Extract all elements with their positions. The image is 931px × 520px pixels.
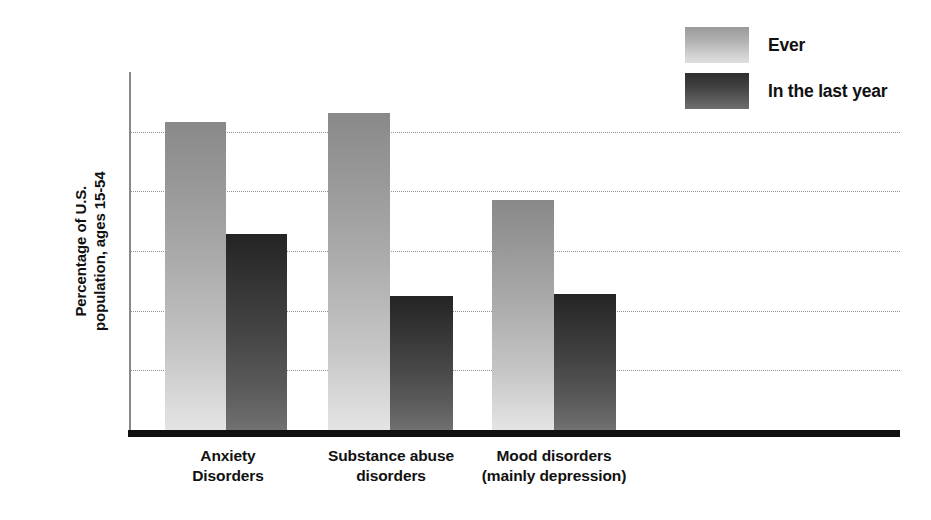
gridline-25 [131,132,900,133]
category-label-anxiety-line-2: Disorders [145,466,311,486]
y-axis-title-line-1: Percentage of U.S. [71,101,90,401]
x-axis-line [128,430,900,437]
plot-area: 0 5 10 15 20 25 30 Anxiety Disorders Sub… [129,72,900,430]
category-label-mood-line-1: Mood disorders [465,446,643,466]
legend-label-ever: Ever [768,35,805,56]
category-label-substance-line-1: Substance abuse [305,446,477,466]
bar-anxiety-ever [165,122,226,430]
legend-item-ever: Ever [685,26,887,64]
category-label-mood-line-2: (mainly depression) [465,466,643,486]
bar-mood-ever [492,200,554,430]
category-label-anxiety: Anxiety Disorders [145,446,311,487]
category-label-anxiety-line-1: Anxiety [145,446,311,466]
bar-substance-last-year [390,296,453,430]
gridline-20 [131,191,900,192]
bar-mood-last-year [554,294,616,430]
bar-anxiety-last-year [226,234,287,430]
category-label-substance-line-2: disorders [305,466,477,486]
legend-swatch-ever [685,27,749,63]
category-label-mood: Mood disorders (mainly depression) [465,446,643,487]
bar-substance-ever [328,113,390,430]
y-axis-title-line-2: population, ages 15-54 [90,101,109,401]
bar-chart: Ever In the last year Percentage of U.S.… [0,0,931,520]
category-label-substance: Substance abuse disorders [305,446,477,487]
y-axis-title: Percentage of U.S. population, ages 15-5… [71,101,109,401]
